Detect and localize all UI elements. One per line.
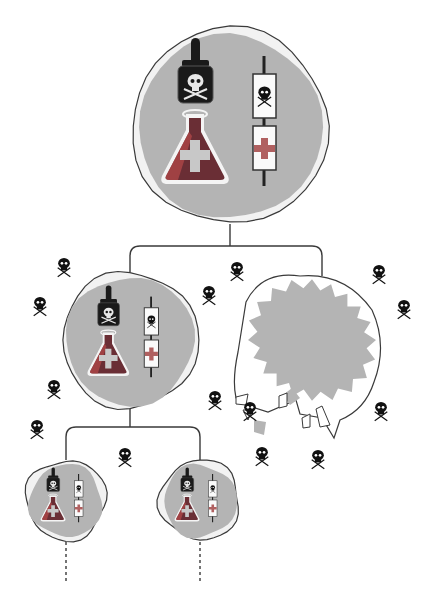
diagram-canvas: [0, 0, 441, 606]
surviving-daughter-cell: [63, 272, 199, 410]
skull-crossbones-icon: [203, 286, 216, 305]
skull-crossbones-icon: [31, 420, 44, 439]
skull-crossbones-icon: [398, 300, 411, 319]
skull-crossbones-icon: [312, 450, 325, 469]
skull-crossbones-icon: [34, 297, 47, 316]
granddaughter-cell-left: [25, 461, 107, 542]
skull-crossbones-icon: [209, 391, 222, 410]
cells: [25, 26, 329, 542]
skull-crossbones-icon: [375, 402, 388, 421]
skull-crossbones-icon: [119, 448, 132, 467]
lysed-cell: [234, 275, 380, 438]
skull-crossbones-icon: [48, 380, 61, 399]
skull-crossbones-icon: [373, 265, 386, 284]
skull-crossbones-icon: [231, 262, 244, 281]
granddaughter-cell-right: [157, 460, 238, 540]
parent-cell: [133, 26, 329, 222]
lineage-diagram: [0, 0, 441, 606]
skull-crossbones-icon: [256, 447, 269, 466]
skull-crossbones-icon: [58, 258, 71, 277]
